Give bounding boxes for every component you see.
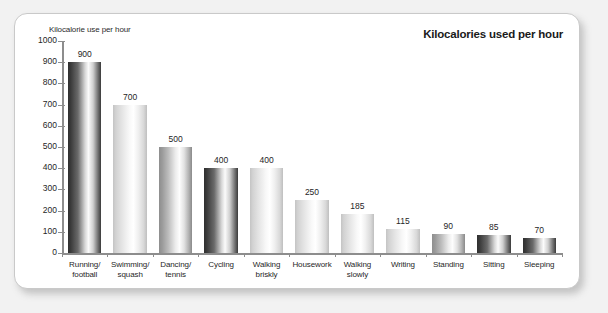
category-label: Running/football: [62, 260, 107, 280]
x-tick-mark: [62, 253, 63, 257]
x-tick-mark: [153, 253, 154, 257]
y-tick-label: 200: [43, 205, 57, 215]
bar-fill: [340, 214, 375, 253]
category-label: Dancing/tennis: [153, 260, 198, 280]
x-tick-mark: [562, 253, 563, 257]
bar-value-label: 500: [169, 134, 183, 144]
category-label: Writing: [380, 260, 425, 270]
x-tick-mark: [244, 253, 245, 257]
x-tick-mark: [289, 253, 290, 257]
y-tick-label: 800: [43, 77, 57, 87]
y-tick-mark: [58, 168, 65, 169]
bar: 500: [158, 147, 193, 253]
category-label: Sleeping: [517, 260, 562, 270]
y-tick-label: 600: [43, 120, 57, 130]
bar-value-label: 400: [259, 155, 273, 165]
y-tick-label: 400: [43, 162, 57, 172]
x-tick-mark: [335, 253, 336, 257]
chart-panel: Kilocalories used per hour Kilocalorie u…: [14, 13, 580, 289]
bar-fill: [112, 105, 147, 253]
bar-fill: [294, 200, 329, 253]
category-label: Swimming/squash: [107, 260, 152, 280]
y-tick-mark: [58, 147, 65, 148]
x-tick-mark: [517, 253, 518, 257]
bar-fill: [249, 168, 284, 253]
y-tick-mark: [58, 105, 65, 106]
plot-area: 01002003004005006007008009001000 9007005…: [62, 41, 562, 253]
category-label: Walkingslowly: [335, 260, 380, 280]
bar-value-label: 250: [305, 187, 319, 197]
y-tick-mark: [58, 83, 65, 84]
x-axis-line: [62, 253, 562, 255]
y-tick-label: 300: [43, 183, 57, 193]
x-tick-mark: [198, 253, 199, 257]
bar: 900: [67, 62, 102, 253]
x-tick-mark: [471, 253, 472, 257]
bar-value-label: 400: [214, 155, 228, 165]
y-tick-label: 1000: [38, 35, 57, 45]
category-label: Standing: [426, 260, 471, 270]
category-label: Cycling: [198, 260, 243, 270]
bar-fill: [522, 238, 557, 253]
category-label: Walkingbriskly: [244, 260, 289, 280]
y-tick-mark: [58, 211, 65, 212]
bar: 115: [385, 229, 420, 253]
y-tick-mark: [58, 41, 65, 42]
bar: 700: [112, 105, 147, 253]
y-tick-label: 900: [43, 56, 57, 66]
y-tick-label: 100: [43, 226, 57, 236]
bar: 400: [203, 168, 238, 253]
bar-value-label: 85: [489, 222, 498, 232]
y-tick-label: 0: [52, 247, 57, 257]
bar: 90: [431, 234, 466, 253]
y-tick-label: 700: [43, 99, 57, 109]
bar-fill: [158, 147, 193, 253]
bar-value-label: 900: [78, 49, 92, 59]
bar-value-label: 185: [350, 201, 364, 211]
bar-value-label: 115: [396, 216, 410, 226]
category-label: Sitting: [471, 260, 516, 270]
x-tick-mark: [107, 253, 108, 257]
bar-value-label: 70: [535, 225, 544, 235]
bar-fill: [203, 168, 238, 253]
y-tick-mark: [58, 189, 65, 190]
y-axis-title: Kilocalorie use per hour: [49, 25, 131, 34]
bar-fill: [67, 62, 102, 253]
y-tick-label: 500: [43, 141, 57, 151]
x-tick-mark: [426, 253, 427, 257]
bar: 70: [522, 238, 557, 253]
bar-fill: [476, 235, 511, 253]
y-tick-mark: [58, 232, 65, 233]
bar: 85: [476, 235, 511, 253]
bar-fill: [385, 229, 420, 253]
bar-value-label: 700: [123, 92, 137, 102]
bar: 185: [340, 214, 375, 253]
bar: 400: [249, 168, 284, 253]
category-label: Housework: [289, 260, 334, 270]
x-tick-mark: [380, 253, 381, 257]
chart-title: Kilocalories used per hour: [423, 28, 563, 40]
bar: 250: [294, 200, 329, 253]
y-tick-mark: [58, 126, 65, 127]
bar-fill: [431, 234, 466, 253]
bar-value-label: 90: [444, 221, 453, 231]
y-tick-mark: [58, 62, 65, 63]
